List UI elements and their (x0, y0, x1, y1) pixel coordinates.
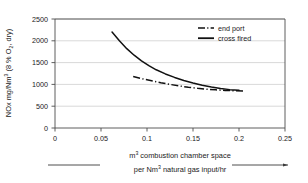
svg-text:NOx mg/Nm3 (8 % O2, dry): NOx mg/Nm3 (8 % O2, dry) (3, 29, 13, 117)
x-axis-caption-line2-pre: per Nm (134, 165, 158, 174)
x-tick-label: 0.2 (234, 134, 244, 143)
x-axis-caption-line2-post: natural gas input/hr (161, 165, 227, 174)
x-tick-label: 0 (53, 134, 57, 143)
x-axis-caption-line1: m3 combustion chamber space (129, 150, 231, 160)
x-tick-label: 0.15 (186, 134, 200, 143)
x-tick-label: 0.05 (94, 134, 108, 143)
nox-emissions-line-chart: 2500 2000 1500 1000 500 0 0 0.05 0.1 0.1… (0, 0, 308, 183)
y-tick-label: 1000 (32, 80, 48, 89)
y-tick-label: 1500 (32, 58, 48, 67)
y-axis-title-post: (8 % O (4, 48, 13, 73)
y-tick-label: 2000 (32, 36, 48, 45)
y-tick-label: 2500 (32, 15, 48, 24)
chart-figure: 2500 2000 1500 1000 500 0 0 0.05 0.1 0.1… (0, 0, 308, 183)
x-tick-label: 0.1 (142, 134, 152, 143)
legend-label-end-port: end port (218, 24, 244, 33)
y-tick-label: 0 (44, 124, 48, 133)
x-tick-label: 0.25 (278, 134, 292, 143)
y-axis-title-pre: NOx mg/Nm (4, 77, 13, 118)
y-tick-label: 500 (36, 102, 48, 111)
x-axis-caption-line1-post: combustion chamber space (138, 151, 230, 160)
y-axis-title: NOx mg/Nm3 (8 % O2, dry) (3, 29, 13, 117)
y-axis-title-tail: , dry) (4, 29, 13, 46)
legend-label-cross-fired: cross fired (218, 34, 251, 43)
x-axis-caption-line2: per Nm3 natural gas input/hr (134, 164, 227, 174)
